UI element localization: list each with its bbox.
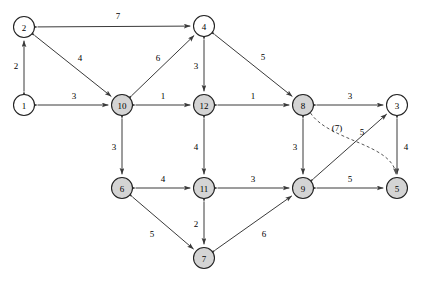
node-2[interactable]: 2: [14, 17, 35, 38]
edge-10-4: [132, 36, 194, 96]
node-1[interactable]: 1: [14, 95, 35, 116]
edge-4-8: [215, 35, 293, 97]
edge-weight-9-5: 5: [348, 174, 353, 184]
graph-canvas: 724361351334344355526(7) 123456789101112: [0, 0, 422, 283]
graph-diagram: 724361351334344355526(7) 123456789101112: [0, 0, 422, 283]
edge-weight-8-5: (7): [332, 123, 343, 133]
node-11[interactable]: 11: [194, 178, 215, 199]
edge-9-3: [313, 114, 386, 179]
node-label-4: 4: [202, 22, 207, 32]
node-label-3: 3: [395, 101, 400, 111]
edge-weight-4-8: 5: [261, 52, 266, 62]
node-label-7: 7: [202, 254, 207, 264]
edge-weight-6-11: 4: [161, 174, 166, 184]
node-label-1: 1: [22, 101, 27, 111]
edge-weight-6-7: 5: [150, 229, 155, 239]
edge-weight-1-10: 3: [72, 91, 77, 101]
node-10[interactable]: 10: [112, 95, 133, 116]
edge-weight-1-2: 2: [14, 61, 19, 71]
node-label-2: 2: [22, 23, 27, 33]
node-label-9: 9: [301, 184, 306, 194]
edge-2-4: [38, 26, 191, 27]
edge-weight-7-9: 6: [262, 229, 267, 239]
edge-weight-4-12: 3: [194, 61, 199, 71]
edge-6-7: [132, 197, 193, 249]
node-12[interactable]: 12: [194, 95, 215, 116]
node-label-10: 10: [118, 101, 128, 111]
node-label-6: 6: [120, 184, 125, 194]
node-3[interactable]: 3: [387, 95, 408, 116]
edge-weight-9-3: 5: [360, 127, 365, 137]
edge-weight-10-6: 3: [112, 142, 117, 152]
node-6[interactable]: 6: [112, 178, 133, 199]
edge-2-10: [35, 36, 112, 97]
edge-weight-2-10: 4: [78, 53, 83, 63]
edge-weight-8-9: 3: [293, 142, 298, 152]
node-9[interactable]: 9: [293, 178, 314, 199]
edge-weight-11-7: 2: [194, 219, 199, 229]
edge-labels-layer: 724361351334344355526(7): [14, 11, 409, 239]
edge-weight-2-4: 7: [116, 11, 121, 21]
node-7[interactable]: 7: [194, 248, 215, 269]
edge-weight-8-3: 3: [348, 91, 353, 101]
nodes-layer: 123456789101112: [14, 16, 408, 269]
edge-weight-11-9: 3: [251, 174, 256, 184]
edge-weight-3-5: 4: [404, 142, 409, 152]
node-label-8: 8: [301, 101, 306, 111]
edge-weight-12-11: 4: [194, 142, 199, 152]
edge-weight-10-4: 6: [156, 53, 161, 63]
node-label-11: 11: [200, 184, 209, 194]
node-label-5: 5: [395, 184, 400, 194]
node-8[interactable]: 8: [293, 95, 314, 116]
node-4[interactable]: 4: [194, 16, 215, 37]
edge-weight-12-8: 1: [251, 91, 256, 101]
node-label-12: 12: [200, 101, 209, 111]
edge-weight-10-12: 1: [161, 91, 166, 101]
node-5[interactable]: 5: [387, 178, 408, 199]
edge-7-9: [215, 196, 292, 250]
